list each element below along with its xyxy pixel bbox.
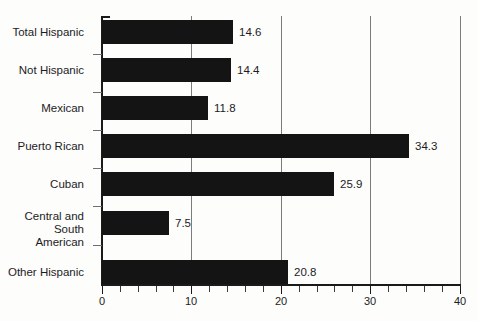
- category-label-central-south-american: Central and South American: [0, 210, 84, 249]
- xtick-label-20: 20: [275, 295, 287, 307]
- xtick-minor: [227, 286, 228, 292]
- bar-value-total-hispanic: 14.6: [239, 20, 261, 44]
- y-axis-tick: [93, 54, 102, 55]
- bar-value-cuban: 25.9: [340, 172, 362, 196]
- xtick-minor: [209, 286, 210, 292]
- xtick-20: [281, 286, 282, 294]
- xtick-minor: [334, 286, 335, 292]
- xtick-minor: [138, 286, 139, 292]
- xtick-minor: [406, 286, 407, 292]
- category-label-mexican: Mexican: [0, 102, 84, 115]
- y-axis-tick: [93, 92, 102, 93]
- y-axis-tick: [93, 245, 102, 246]
- y-axis-tick: [93, 168, 102, 169]
- bar-cuban: [102, 172, 334, 196]
- bar-value-mexican: 11.8: [214, 96, 236, 120]
- bar-total-hispanic: [102, 20, 233, 44]
- xtick-minor: [299, 286, 300, 292]
- y-axis-top-cap: [101, 16, 110, 18]
- gridline-40: [460, 16, 461, 284]
- xtick-minor: [424, 286, 425, 292]
- category-label-other-hispanic: Other Hispanic: [0, 266, 84, 279]
- xtick-label-10: 10: [185, 295, 197, 307]
- xtick-30: [370, 286, 371, 294]
- xtick-minor: [120, 286, 121, 292]
- bar-value-other-hispanic: 20.8: [294, 260, 316, 284]
- bar-value-not-hispanic: 14.4: [237, 58, 259, 82]
- category-label-total-hispanic: Total Hispanic: [0, 26, 84, 39]
- category-label-cuban: Cuban: [0, 178, 84, 191]
- xtick-minor: [245, 286, 246, 292]
- category-label-line-2: American: [0, 236, 84, 249]
- bar-chart-figure: 14.6 14.4 11.8 34.3 25.9 7.5 20.8 Total …: [0, 0, 478, 321]
- xtick-minor: [173, 286, 174, 292]
- xtick-minor: [442, 286, 443, 292]
- bar-not-hispanic: [102, 58, 231, 82]
- xtick-minor: [156, 286, 157, 292]
- y-axis-tick: [93, 130, 102, 131]
- bar-value-central-south-american: 7.5: [175, 211, 191, 235]
- xtick-minor: [317, 286, 318, 292]
- xtick-label-40: 40: [454, 295, 466, 307]
- xtick-label-0: 0: [99, 295, 105, 307]
- bar-puerto-rican: [102, 134, 409, 158]
- bar-other-hispanic: [102, 260, 288, 284]
- xtick-label-30: 30: [364, 295, 376, 307]
- bar-value-puerto-rican: 34.3: [415, 134, 437, 158]
- xtick-10: [191, 286, 192, 294]
- category-label-not-hispanic: Not Hispanic: [0, 64, 84, 77]
- xtick-minor: [388, 286, 389, 292]
- xtick-40: [460, 286, 461, 294]
- xtick-0: [102, 286, 103, 294]
- category-label-line-1: Central and South: [0, 210, 84, 236]
- xtick-minor: [352, 286, 353, 292]
- category-label-puerto-rican: Puerto Rican: [0, 140, 84, 153]
- xtick-minor: [263, 286, 264, 292]
- bar-central-south-american: [102, 211, 169, 235]
- bar-mexican: [102, 96, 208, 120]
- y-axis-tick: [93, 206, 102, 207]
